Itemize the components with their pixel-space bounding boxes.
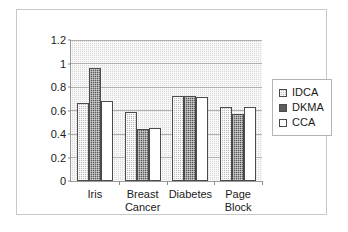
x-axis-tick-mark — [119, 181, 120, 185]
x-axis-tick-label-line: Block — [225, 201, 252, 213]
y-axis-tick-label: 1.2 — [51, 35, 66, 46]
bar-dkma-iris — [89, 68, 101, 181]
y-axis-tick-label: 0.4 — [51, 129, 66, 140]
bar-idca-iris — [77, 103, 89, 181]
legend-swatch-cca-icon — [279, 119, 287, 127]
legend-label: IDCA — [292, 87, 318, 98]
x-axis-tick-label: Diabetes — [169, 188, 212, 201]
bar-idca-breast-cancer — [125, 112, 137, 181]
bar-idca-page-block — [220, 107, 232, 181]
legend-item-idca: IDCA — [279, 85, 324, 100]
y-axis-tick-label: 1 — [60, 58, 66, 69]
x-axis-tick-label-line: Cancer — [125, 201, 160, 213]
bars-layer — [71, 40, 262, 181]
x-axis-tick-label: PageBlock — [225, 188, 252, 214]
bar-group — [71, 40, 119, 181]
chart-frame: 00.20.40.60.811.2 IrisBreastCancerDiabet… — [16, 9, 327, 215]
bar-group — [214, 40, 262, 181]
x-axis-tick-mark — [262, 181, 263, 185]
y-axis-tick-label: 0.6 — [51, 105, 66, 116]
x-axis-tick-label-line: Page — [225, 188, 251, 200]
bar-dkma-breast-cancer — [137, 129, 149, 181]
x-axis-tick-mark — [167, 181, 168, 185]
bar-dkma-page-block — [232, 114, 244, 181]
x-axis-tick-label-line: Iris — [88, 188, 103, 200]
legend-item-cca: CCA — [279, 115, 324, 130]
bar-dkma-diabetes — [184, 96, 196, 181]
x-axis-tick-label: Iris — [88, 188, 103, 201]
bar-group — [167, 40, 215, 181]
chart-legend: IDCADKMACCA — [272, 79, 332, 136]
legend-swatch-idca-icon — [279, 89, 287, 97]
legend-swatch-dkma-icon — [279, 104, 287, 112]
bar-idca-diabetes — [172, 96, 184, 181]
y-axis-tick-label: 0.8 — [51, 82, 66, 93]
bar-cca-breast-cancer — [149, 128, 161, 181]
y-axis-tick-label: 0.2 — [51, 152, 66, 163]
x-axis-tick-label-line: Breast — [127, 188, 159, 200]
x-axis-tick-mark — [214, 181, 215, 185]
x-axis-tick-label-line: Diabetes — [169, 188, 212, 200]
bar-cca-page-block — [244, 107, 256, 181]
plot-area: 00.20.40.60.811.2 IrisBreastCancerDiabet… — [70, 40, 262, 182]
bar-group — [119, 40, 167, 181]
x-axis-tick-label: BreastCancer — [125, 188, 160, 214]
legend-item-dkma: DKMA — [279, 100, 324, 115]
legend-label: CCA — [292, 117, 315, 128]
bar-cca-iris — [101, 101, 113, 181]
bar-cca-diabetes — [196, 97, 208, 181]
legend-label: DKMA — [292, 102, 324, 113]
y-axis-tick-label: 0 — [60, 176, 66, 187]
